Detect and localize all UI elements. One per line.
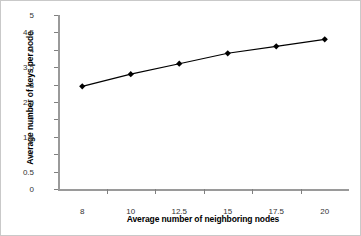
y-tick-label: 4.5 xyxy=(0,28,34,37)
y-tick-label: 0.5 xyxy=(0,167,34,176)
data-series-line xyxy=(58,15,349,190)
x-axis-title: Average number of neighboring nodes xyxy=(57,214,349,224)
data-point-marker xyxy=(176,61,182,67)
y-tick-label: 2.5 xyxy=(0,98,34,107)
plot-area: 00.511.522.533.544.55 81012.51517.520 xyxy=(58,15,349,189)
data-point-marker xyxy=(79,83,85,89)
chart-container: Average number of keys per node 00.511.5… xyxy=(0,0,361,236)
data-point-marker xyxy=(273,43,279,49)
data-point-marker xyxy=(225,50,231,56)
y-tick-label: 1.5 xyxy=(0,132,34,141)
y-tick-label: 4 xyxy=(0,45,34,54)
y-tick-label: 0 xyxy=(0,185,34,194)
y-tick-label: 5 xyxy=(0,11,34,20)
series-polyline xyxy=(82,39,325,86)
data-point-marker xyxy=(128,71,134,77)
y-tick-label: 1 xyxy=(0,150,34,159)
data-point-marker xyxy=(322,36,328,42)
y-tick-label: 3 xyxy=(0,80,34,89)
y-tick-label: 3.5 xyxy=(0,63,34,72)
y-tick-label: 2 xyxy=(0,115,34,124)
